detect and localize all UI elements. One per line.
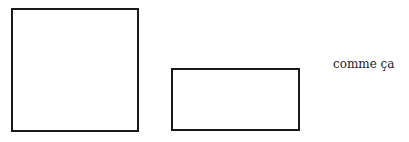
large-square xyxy=(11,8,139,132)
small-rectangle xyxy=(171,68,300,131)
caption-text: comme ça xyxy=(333,57,395,71)
